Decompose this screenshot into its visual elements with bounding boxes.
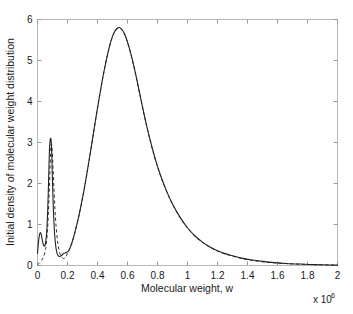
y-tick-label: 6 xyxy=(27,14,33,25)
x-tick-label: 1.2 xyxy=(211,270,225,281)
x-tick-label: 1.4 xyxy=(241,270,255,281)
y-tick-label: 0 xyxy=(27,260,33,271)
x-axis-title: Molecular weight, w xyxy=(141,282,234,294)
x-axis-multiplier: x 10 xyxy=(313,294,332,305)
chart-figure: 00.20.40.60.811.21.41.61.82 0123456 Mole… xyxy=(0,0,353,314)
x-axis-multiplier-exponent: 6 xyxy=(331,292,335,299)
x-tick-label: 2 xyxy=(335,270,341,281)
y-tick-label: 5 xyxy=(27,55,33,66)
x-tick-label: 0.2 xyxy=(61,270,75,281)
x-tick-label: 1.6 xyxy=(271,270,285,281)
y-tick-label: 1 xyxy=(27,219,33,230)
y-tick-label: 4 xyxy=(27,96,33,107)
x-tick-label: 0.4 xyxy=(91,270,105,281)
x-tick-label: 1 xyxy=(185,270,191,281)
y-tick-label: 2 xyxy=(27,178,33,189)
chart-background xyxy=(0,0,353,314)
molecular-weight-distribution-chart: 00.20.40.60.811.21.41.61.82 0123456 Mole… xyxy=(0,0,353,314)
y-axis-title: Initial density of molecular weight dist… xyxy=(4,38,16,246)
x-tick-label: 1.8 xyxy=(301,270,315,281)
y-tick-label: 3 xyxy=(27,137,33,148)
x-tick-label: 0 xyxy=(35,270,41,281)
x-tick-label: 0.6 xyxy=(121,270,135,281)
x-tick-label: 0.8 xyxy=(151,270,165,281)
